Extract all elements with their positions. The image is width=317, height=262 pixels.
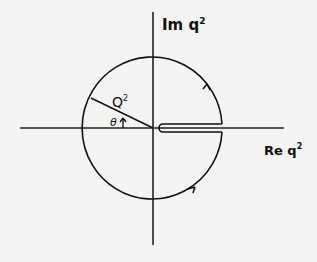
radius-label: Q2 (112, 94, 128, 110)
angle-arrow-icon (120, 118, 126, 128)
real-axis-label: Re q2 (264, 142, 302, 158)
arrow-upper-right-icon (203, 84, 210, 90)
imaginary-axis-label: Im q2 (162, 16, 205, 34)
angle-label: θ (110, 116, 117, 129)
contour-diagram: Im q2 Re q2 Q2 θ (0, 0, 317, 262)
arrow-lower-right-icon (188, 187, 195, 193)
